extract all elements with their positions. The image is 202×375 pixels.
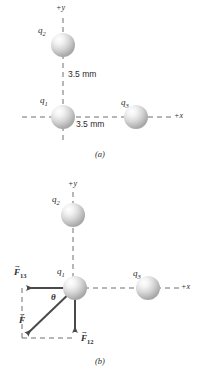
charge-label-q2-a: q2	[38, 26, 46, 37]
vector-arrow-icon: →	[81, 328, 89, 336]
charge-sphere-q2-b	[61, 203, 85, 227]
charge-sphere-q2-a	[51, 33, 75, 57]
panel-b-geometry	[22, 192, 180, 338]
physics-figure: +y +x q2 q1 q3 3.5 mm 3.5 mm (a) +y +x q…	[0, 0, 202, 375]
charge-label-q3-b: q3	[133, 269, 141, 280]
panel-caption-b: (b)	[95, 357, 105, 366]
charge-sphere-q1-b	[63, 276, 87, 300]
vector-arrow-icon: →	[19, 310, 27, 318]
charge-label-q2-b: q2	[52, 195, 60, 206]
axis-label-plus-x-a: +x	[174, 112, 183, 120]
angle-label-theta: θ	[51, 293, 56, 302]
panel-caption-a: (a)	[95, 150, 105, 159]
figure-canvas	[0, 0, 202, 375]
force-label-F13: →F13	[14, 268, 27, 279]
charge-sphere-q1-a	[51, 105, 75, 129]
force-label-F12: →F12	[81, 334, 94, 345]
charge-label-q1-a: q1	[40, 96, 48, 107]
charge-label-q1-b: q1	[57, 267, 65, 278]
distance-label-q1-q2: 3.5 mm	[68, 70, 96, 79]
axis-label-plus-y-b: +y	[68, 180, 77, 188]
vector-arrow-icon: →	[14, 262, 22, 270]
axis-label-plus-x-b: +x	[181, 283, 190, 291]
distance-label-q1-q3: 3.5 mm	[76, 120, 104, 129]
force-label-F-resultant: →F	[19, 316, 25, 327]
charge-label-q3-a: q3	[121, 98, 129, 109]
axis-label-plus-y-a: +y	[56, 4, 65, 12]
